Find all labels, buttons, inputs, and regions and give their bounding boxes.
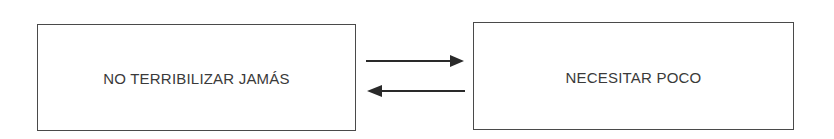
arrow-left-icon: [367, 85, 465, 97]
arrow-right-icon: [366, 55, 464, 67]
arrows-layer: [0, 0, 834, 139]
